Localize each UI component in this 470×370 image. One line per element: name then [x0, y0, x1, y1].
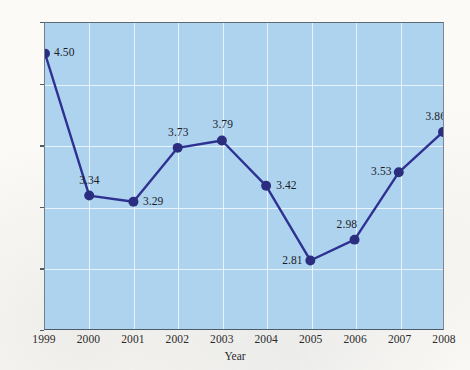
- data-point-marker[interactable]: [84, 191, 94, 201]
- x-axis-tick-label: 2007: [388, 333, 411, 345]
- data-point-marker[interactable]: [305, 255, 315, 265]
- data-point-marker[interactable]: [45, 49, 50, 59]
- x-axis-tick-label: 2002: [166, 333, 189, 345]
- x-axis-tick-label: 2003: [210, 333, 233, 345]
- series-line: [45, 54, 443, 261]
- data-point-label: 3.34: [79, 174, 100, 186]
- plot-area: 4.503.343.293.733.793.422.812.983.533.86: [45, 23, 443, 329]
- marker-group: [45, 49, 443, 266]
- x-axis-tick-label: 2008: [432, 333, 455, 345]
- y-axis-tick-mark: [40, 330, 44, 331]
- plot-area-frame: 4.503.343.293.733.793.422.812.983.533.86: [44, 22, 444, 330]
- data-point-label: 4.50: [54, 46, 75, 58]
- x-axis-tick-label: 2000: [77, 333, 100, 345]
- data-point-label: 3.29: [143, 195, 164, 207]
- data-point-label: 3.53: [371, 165, 392, 177]
- data-point-marker[interactable]: [261, 181, 271, 191]
- data-point-marker[interactable]: [350, 235, 360, 245]
- data-point-label: 3.73: [168, 126, 189, 138]
- data-point-label: 3.42: [276, 179, 297, 191]
- line-chart: 4.754.253.753.252.752.25 4.503.343.293.7…: [0, 0, 470, 370]
- data-point-marker[interactable]: [217, 136, 227, 146]
- data-point-marker[interactable]: [173, 143, 183, 153]
- data-point-marker[interactable]: [394, 167, 404, 177]
- x-axis-title: Year: [0, 350, 470, 362]
- x-axis-tick-label: 1999: [32, 333, 55, 345]
- data-point-label: 3.86: [425, 110, 443, 122]
- x-axis-tick-label: 2006: [343, 333, 366, 345]
- data-point-label: 2.81: [282, 254, 303, 266]
- data-point-label: 3.79: [213, 118, 234, 130]
- x-axis-tick-label: 2005: [299, 333, 322, 345]
- data-point-marker[interactable]: [128, 197, 138, 207]
- x-axis-tick-label: 2004: [254, 333, 277, 345]
- data-point-label: 2.98: [337, 218, 358, 230]
- x-axis-tick-label: 2001: [121, 333, 144, 345]
